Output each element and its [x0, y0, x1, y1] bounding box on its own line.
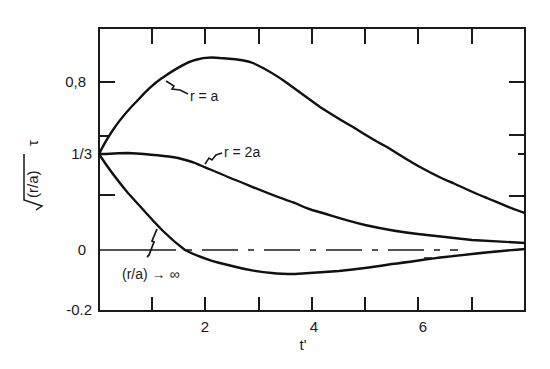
x-tick-label-2: 2	[201, 318, 209, 335]
curve-label-r-inf: (r/a) → ∞	[122, 266, 179, 282]
y-tick-label-0-8: 0,8	[65, 73, 86, 90]
pointer-r-2a-icon	[205, 153, 222, 164]
x-axis-ticks-bottom	[152, 297, 472, 311]
chart-canvas: 0,8 1/3 0 -0.2 2 4 6 t' (r/a) τ r = a r …	[0, 0, 550, 369]
pointer-r-a-icon	[166, 81, 188, 94]
y-axis-title: (r/a) τ	[24, 140, 42, 210]
curve-r-over-a-infinity	[99, 154, 525, 274]
y-axis-title-tau: τ	[24, 140, 41, 146]
x-axis-ticks-top	[152, 28, 472, 44]
x-axis-title: t'	[299, 336, 306, 353]
y-tick-label-0: 0	[78, 241, 86, 258]
y-axis-title-arg: (r/a)	[24, 171, 41, 199]
pointer-r-inf-icon	[147, 229, 157, 257]
curve-r-equals-a	[99, 57, 525, 213]
y-tick-label-one-third: 1/3	[71, 145, 92, 162]
x-tick-label-4: 4	[310, 318, 318, 335]
x-tick-label-6: 6	[419, 318, 427, 335]
y-tick-label-neg-0-2: -0.2	[66, 301, 92, 318]
curve-label-r-2a: r = 2a	[224, 144, 260, 160]
y-axis-ticks-right	[509, 82, 525, 196]
curve-label-r-a: r = a	[190, 88, 219, 104]
